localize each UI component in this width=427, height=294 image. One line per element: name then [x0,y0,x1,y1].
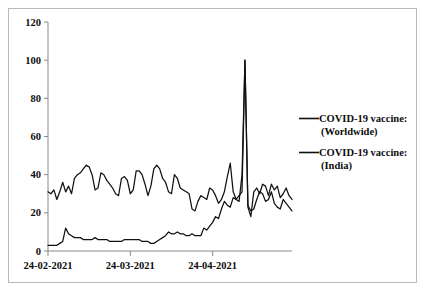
series-line-india [48,60,292,245]
y-axis-tick-label: 0 [36,246,41,257]
line-chart: 020406080100120 24-02-202124-03-202124-0… [0,0,427,294]
y-axis-tick-label: 120 [25,17,41,28]
y-axis-tick-label: 40 [31,169,42,180]
x-axis: 24-02-202124-03-202124-04-2021 [24,251,293,271]
legend-label-worldwide: COVID-19 vaccine: [319,113,407,124]
legend-label-india: COVID-19 vaccine: [319,147,407,158]
legend-sublabel-india: (India) [321,160,352,172]
x-axis-tick-label: 24-03-2021 [106,260,155,271]
legend-sublabel-worldwide: (Worldwide) [321,126,378,138]
y-axis-tick-label: 80 [31,93,42,104]
y-axis-tick-label: 60 [31,131,42,142]
chart-legend: COVID-19 vaccine:(Worldwide)COVID-19 vac… [299,113,407,172]
series-group [48,60,292,245]
y-axis-tick-label: 20 [31,207,42,218]
y-axis: 020406080100120 [25,17,48,257]
series-line-worldwide [48,60,292,216]
x-axis-tick-label: 24-04-2021 [188,260,237,271]
y-axis-tick-label: 100 [25,55,41,66]
x-axis-tick-label: 24-02-2021 [24,260,73,271]
chart-container: 020406080100120 24-02-202124-03-202124-0… [0,0,427,294]
